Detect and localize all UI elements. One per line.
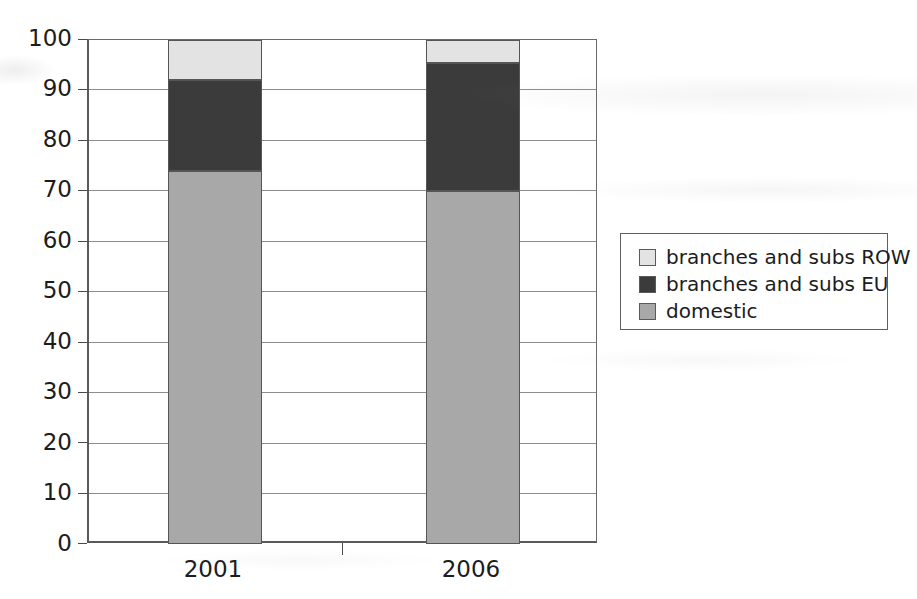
bar-2001-segment-branches-and-subs-row[interactable] (168, 40, 262, 80)
legend-swatch-branches-and-subs-row (639, 249, 656, 266)
y-tick-label-0: 0 (57, 532, 72, 555)
y-tick-label-20: 20 (43, 431, 72, 454)
legend-label-branches-and-subs-row: branches and subs ROW (666, 246, 911, 268)
legend-swatch-branches-and-subs-eu (639, 276, 656, 293)
bar-2001[interactable] (168, 40, 262, 544)
bar-2006[interactable] (426, 40, 520, 544)
legend-item-domestic[interactable]: domestic (639, 298, 887, 324)
legend-item-branches-and-subs-eu[interactable]: branches and subs EU (639, 271, 887, 297)
bar-2006-segment-branches-and-subs-row[interactable] (426, 40, 520, 63)
y-tick-mark-10 (78, 493, 87, 494)
y-tick-label-40: 40 (43, 330, 72, 353)
y-tick-mark-30 (78, 392, 87, 393)
legend-label-domestic: domestic (666, 300, 758, 322)
y-tick-label-50: 50 (43, 279, 72, 302)
x-tick-mark-middle (342, 543, 343, 555)
y-tick-label-90: 90 (43, 77, 72, 100)
bar-2006-segment-branches-and-subs-eu[interactable] (426, 63, 520, 191)
y-tick-label-30: 30 (43, 380, 72, 403)
bar-2006-segment-domestic[interactable] (426, 191, 520, 544)
y-tick-mark-100 (78, 39, 87, 40)
y-tick-label-80: 80 (43, 128, 72, 151)
x-tick-label-2001: 2001 (153, 556, 273, 582)
bar-2001-segment-branches-and-subs-eu[interactable] (168, 80, 262, 171)
legend-item-branches-and-subs-row[interactable]: branches and subs ROW (639, 244, 887, 270)
y-tick-mark-80 (78, 140, 87, 141)
y-tick-mark-50 (78, 291, 87, 292)
y-tick-label-60: 60 (43, 229, 72, 252)
x-tick-label-2006: 2006 (411, 556, 531, 582)
y-tick-mark-90 (78, 89, 87, 90)
y-tick-mark-40 (78, 342, 87, 343)
chart-legend: branches and subs ROW branches and subs … (620, 233, 888, 330)
y-tick-label-10: 10 (43, 481, 72, 504)
y-tick-mark-20 (78, 442, 87, 443)
stacked-bar-chart: 100 90 80 70 60 50 40 30 20 10 0 (0, 0, 917, 599)
y-tick-label-100: 100 (28, 27, 72, 50)
legend-swatch-domestic (639, 303, 656, 320)
y-axis-label-group: 100 90 80 70 60 50 40 30 20 10 0 (0, 0, 72, 599)
bar-2001-segment-domestic[interactable] (168, 171, 262, 544)
y-tick-mark-60 (78, 241, 87, 242)
y-tick-mark-70 (78, 190, 87, 191)
y-tick-label-70: 70 (43, 178, 72, 201)
y-tick-mark-0 (78, 543, 87, 544)
plot-area (87, 39, 597, 543)
legend-label-branches-and-subs-eu: branches and subs EU (666, 273, 888, 295)
